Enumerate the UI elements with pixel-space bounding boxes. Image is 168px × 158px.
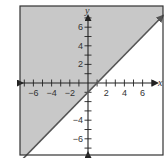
x-tick-label: −2 <box>65 88 75 98</box>
x-tick-label: 4 <box>122 88 127 98</box>
y-tick-label: 6 <box>78 22 83 32</box>
y-tick-label: 2 <box>78 59 83 69</box>
y-tick-label: −6 <box>73 134 83 144</box>
plot-area <box>11 6 168 158</box>
x-tick-label: −6 <box>28 88 38 98</box>
inequality-graph: −6−4−2246642−4−6 x y <box>0 0 168 158</box>
x-tick-label: 6 <box>140 88 145 98</box>
y-axis-label: y <box>84 5 90 16</box>
x-tick-label: −4 <box>46 88 56 98</box>
y-tick-label: 4 <box>78 41 83 51</box>
x-tick-label: 2 <box>104 88 109 98</box>
x-axis-label: x <box>157 77 163 88</box>
y-tick-label: −4 <box>73 115 83 125</box>
